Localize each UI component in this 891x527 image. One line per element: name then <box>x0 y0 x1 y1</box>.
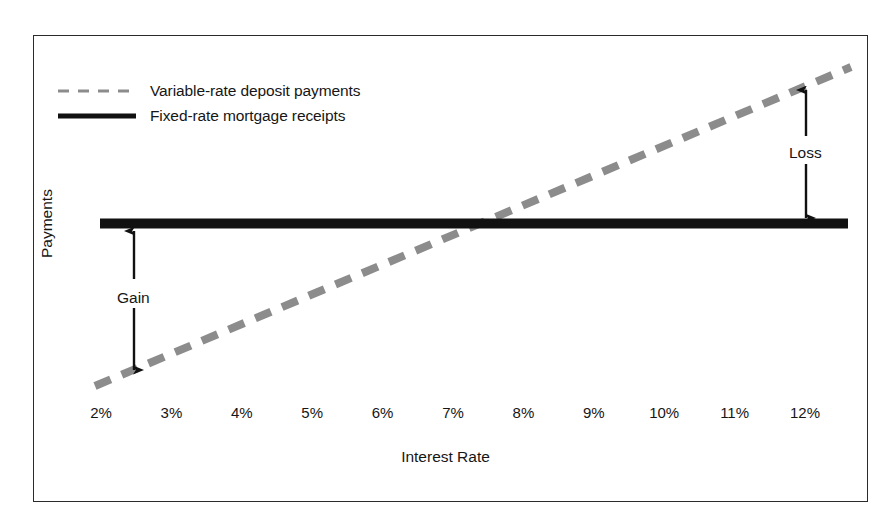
x-tick-label: 9% <box>583 404 605 421</box>
legend-label-variable-rate: Variable-rate deposit payments <box>150 82 360 99</box>
chart-legend: Variable-rate deposit payments Fixed-rat… <box>58 78 458 128</box>
dashed-line-swatch-icon <box>58 85 136 97</box>
x-tick-label: 7% <box>442 404 464 421</box>
legend-item-fixed-rate: Fixed-rate mortgage receipts <box>58 103 458 128</box>
loss-annotation-label: Loss <box>786 143 825 163</box>
gain-annotation-label: Gain <box>114 288 153 308</box>
y-axis-title: Payments <box>38 189 56 258</box>
chart-figure: Variable-rate deposit payments Fixed-rat… <box>0 0 891 527</box>
x-axis-tick-labels: 2%3%4%5%6%7%8%9%10%11%12% <box>0 404 891 426</box>
x-tick-label: 8% <box>513 404 535 421</box>
legend-item-variable-rate: Variable-rate deposit payments <box>58 78 458 103</box>
x-tick-label: 12% <box>790 404 820 421</box>
x-tick-label: 10% <box>649 404 679 421</box>
solid-line-swatch-icon <box>58 110 136 122</box>
legend-label-fixed-rate: Fixed-rate mortgage receipts <box>150 107 345 124</box>
x-tick-label: 6% <box>372 404 394 421</box>
x-tick-label: 4% <box>231 404 253 421</box>
x-tick-label: 3% <box>161 404 183 421</box>
x-tick-label: 5% <box>301 404 323 421</box>
x-tick-label: 2% <box>90 404 112 421</box>
x-axis-title: Interest Rate <box>0 448 891 466</box>
x-tick-label: 11% <box>720 404 749 421</box>
